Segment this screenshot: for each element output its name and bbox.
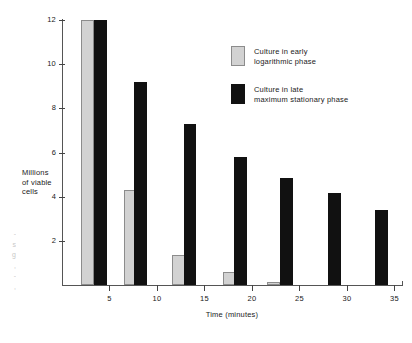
x-axis-end-cap [402,281,403,286]
x-axis-tick-mark [299,285,300,291]
chart-legend: Culture in early logarithmic phase Cultu… [231,46,401,122]
y-axis-tick-label-wrap: 8 [0,104,56,105]
legend-label-late-stationary-line-1: Culture in late [254,85,348,95]
x-axis-tick-mark [394,285,395,291]
y-axis-tick-label: 8 [36,104,56,112]
bar-late-stationary-1 [134,82,147,285]
page-margin-bleed-line: , [2,261,16,272]
y-axis-tick-label: 2 [36,237,56,245]
legend-label-early-log-line-1: Culture in early [254,47,316,57]
x-axis-tick-label: 15 [192,295,216,303]
legend-label-early-log-line-2: logarithmic phase [254,57,316,67]
x-axis-tick-mark [157,285,158,291]
legend-entry-early-log: Culture in early logarithmic phase [231,46,401,67]
y-axis-tick-label-wrap: 10 [0,60,56,61]
y-axis-tick-label: 12 [36,16,56,24]
x-axis-tick-label: 20 [240,295,264,303]
x-axis-tick-label: 30 [335,295,359,303]
bar-chart-figure: -sg,-, 24681012 5101520253035 Millions o… [0,0,412,343]
legend-label-late-stationary-line-2: maximum stationary phase [254,95,348,105]
legend-swatch-gray-icon [231,46,245,66]
x-axis-tick-mark [109,285,110,291]
x-axis-line [62,285,402,286]
bar-late-stationary-2 [184,124,197,285]
x-axis-tick-mark [347,285,348,291]
bar-early-log-0 [81,20,94,285]
legend-label-late-stationary: Culture in late maximum stationary phase [254,84,348,105]
legend-entry-late-stationary: Culture in late maximum stationary phase [231,84,401,105]
bar-late-stationary-3 [234,157,247,285]
x-axis-tick-label: 10 [145,295,169,303]
x-axis-tick-mark [204,285,205,291]
page-margin-bleed-line: , [2,282,16,293]
x-axis-tick-mark [252,285,253,291]
y-axis-title-line-2: of viable [22,178,62,188]
x-axis-tick-label: 35 [382,295,406,303]
bar-early-log-4 [267,282,280,285]
y-axis-tick-label-wrap: 12 [0,16,56,17]
y-axis-tick-label-wrap: 2 [0,237,56,238]
legend-swatch-black-icon [231,84,245,104]
y-axis-title: Millions of viable cells [22,168,62,197]
x-axis-tick-label: 25 [287,295,311,303]
y-axis-title-line-3: cells [22,187,62,197]
page-margin-bleed-line: - [2,229,16,240]
x-axis-tick-label: 5 [97,295,121,303]
y-axis-tick-label: 10 [36,60,56,68]
bar-late-stationary-4 [280,178,293,285]
y-axis-tick-label: 6 [36,149,56,157]
page-margin-bleed-line: - [2,271,16,282]
page-margin-bleed-line: g [2,250,16,261]
bar-late-stationary-0 [94,20,107,285]
bar-late-stationary-5 [328,193,341,285]
page-margin-bleed-text: -sg,-, [2,229,16,292]
legend-label-early-log: Culture in early logarithmic phase [254,46,316,67]
x-axis-title: Time (minutes) [62,310,402,319]
y-axis-tick-label-wrap: 6 [0,149,56,150]
y-axis-title-line-1: Millions [22,168,62,178]
bar-late-stationary-6 [375,210,388,285]
page-margin-bleed-line: s [2,240,16,251]
